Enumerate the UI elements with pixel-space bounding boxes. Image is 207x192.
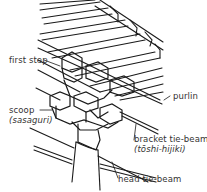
label-bracket-tie-beam: bracket tie-beam — [134, 135, 207, 144]
post — [72, 142, 100, 190]
label-scoop-japanese: (sasaguri) — [9, 116, 53, 125]
label-bracket-tie-beam-japanese: (tōshi-hijiki) — [134, 145, 186, 154]
label-purlin: purlin — [173, 92, 198, 101]
label-first-step: first step — [9, 56, 48, 65]
label-head-tie-beam: head tie-beam — [118, 175, 181, 184]
label-scoop: scoop — [9, 106, 34, 115]
bracket-diagram: first step purlin scoop (sasaguri) brack… — [0, 0, 207, 192]
